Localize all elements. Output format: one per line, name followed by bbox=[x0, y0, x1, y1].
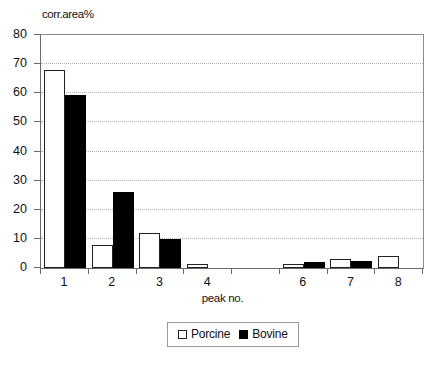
x-tick-6 bbox=[327, 269, 328, 274]
bar-bovine-2 bbox=[113, 192, 134, 268]
y-tick-label-0: 0 bbox=[0, 261, 27, 274]
x-tick-label-2: 2 bbox=[108, 276, 115, 289]
bar-bovine-3 bbox=[160, 239, 181, 268]
bars-layer bbox=[41, 35, 423, 268]
legend-swatch-bovine-icon bbox=[239, 330, 248, 339]
x-tick-label-6: 6 bbox=[299, 276, 306, 289]
plot-area bbox=[40, 34, 424, 269]
y-tick-50 bbox=[34, 121, 40, 122]
bar-porcine-3 bbox=[139, 233, 160, 268]
legend-item-porcine: Porcine bbox=[178, 327, 230, 341]
y-axis-title: corr.area% bbox=[42, 8, 94, 20]
x-tick-2 bbox=[136, 269, 137, 274]
x-tick-label-1: 1 bbox=[60, 276, 67, 289]
x-tick-label-3: 3 bbox=[156, 276, 163, 289]
x-tick-3 bbox=[183, 269, 184, 274]
bar-porcine-1 bbox=[44, 70, 65, 268]
y-tick-0 bbox=[34, 267, 40, 268]
legend-label-porcine: Porcine bbox=[191, 327, 230, 341]
legend-item-bovine: Bovine bbox=[239, 327, 288, 341]
bar-bovine-6 bbox=[304, 262, 325, 268]
x-tick-origin bbox=[40, 269, 41, 274]
bar-chart: corr.area% peak no. Porcine Bovine 01020… bbox=[0, 0, 445, 365]
bar-bovine-1 bbox=[65, 95, 86, 268]
legend-label-bovine: Bovine bbox=[252, 327, 288, 341]
y-tick-10 bbox=[34, 238, 40, 239]
y-tick-label-40: 40 bbox=[0, 144, 27, 157]
legend-swatch-porcine-icon bbox=[178, 330, 187, 339]
x-tick-label-4: 4 bbox=[204, 276, 211, 289]
y-tick-30 bbox=[34, 180, 40, 181]
y-tick-label-30: 30 bbox=[0, 173, 27, 186]
y-tick-label-80: 80 bbox=[0, 28, 27, 41]
bar-porcine-8 bbox=[378, 256, 399, 268]
y-tick-80 bbox=[34, 34, 40, 35]
chart-legend: Porcine Bovine bbox=[167, 322, 299, 347]
x-axis-title: peak no. bbox=[0, 292, 445, 304]
x-tick-1 bbox=[88, 269, 89, 274]
x-tick-7 bbox=[374, 269, 375, 274]
page-caption bbox=[10, 357, 435, 363]
x-tick-5 bbox=[279, 269, 280, 274]
y-tick-label-60: 60 bbox=[0, 86, 27, 99]
y-tick-label-10: 10 bbox=[0, 232, 27, 245]
y-tick-label-20: 20 bbox=[0, 203, 27, 216]
y-tick-20 bbox=[34, 209, 40, 210]
y-tick-label-50: 50 bbox=[0, 115, 27, 128]
bar-bovine-7 bbox=[351, 261, 372, 268]
x-tick-label-8: 8 bbox=[395, 276, 402, 289]
x-tick-label-7: 7 bbox=[347, 276, 354, 289]
bar-porcine-6 bbox=[283, 264, 304, 268]
y-tick-40 bbox=[34, 151, 40, 152]
bar-porcine-4 bbox=[187, 264, 208, 268]
x-tick-4 bbox=[231, 269, 232, 274]
x-tick-8 bbox=[422, 269, 423, 274]
y-tick-70 bbox=[34, 63, 40, 64]
bar-porcine-2 bbox=[92, 245, 113, 268]
y-tick-60 bbox=[34, 92, 40, 93]
y-tick-label-70: 70 bbox=[0, 57, 27, 70]
bar-porcine-7 bbox=[330, 259, 351, 268]
